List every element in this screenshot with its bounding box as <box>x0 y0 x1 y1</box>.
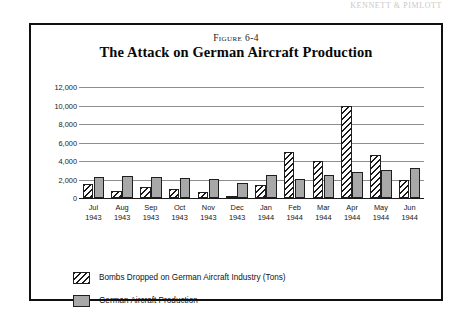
bar-bombs-dropped <box>255 185 266 198</box>
bar-bombs-dropped <box>169 189 180 198</box>
y-axis-tick-label: 6,000 <box>35 138 77 147</box>
legend-label: Bombs Dropped on German Aircraft Industr… <box>99 273 286 282</box>
x-axis-tick-label: Oct1943 <box>165 203 194 223</box>
bar-group <box>140 87 162 198</box>
bar-bombs-dropped <box>341 106 352 199</box>
bar-group <box>399 87 421 198</box>
bar-group <box>198 87 220 198</box>
x-tick-month: Nov <box>194 203 223 213</box>
x-tick-month: Jan <box>252 203 281 213</box>
y-axis-tick-label: 4,000 <box>35 157 77 166</box>
bar-aircraft-production <box>237 183 248 198</box>
bar-bombs-dropped <box>111 191 122 198</box>
x-axis-tick-label: Apr1944 <box>338 203 367 223</box>
x-tick-month: Sep <box>137 203 166 213</box>
x-tick-month: May <box>367 203 396 213</box>
x-axis-tick-label: May1944 <box>367 203 396 223</box>
figure-title: The Attack on German Aircraft Production <box>31 44 441 61</box>
x-axis-tick-label: Nov1943 <box>194 203 223 223</box>
figure-frame: Figure 6-4 The Attack on German Aircraft… <box>29 23 443 301</box>
y-axis-tick-label: 0 <box>35 194 77 203</box>
y-axis-tick-label: 8,000 <box>35 120 77 129</box>
bar-group <box>169 87 191 198</box>
x-axis-tick-label: Jul1943 <box>79 203 108 223</box>
bar-bombs-dropped <box>198 192 209 198</box>
bar-bombs-dropped <box>284 152 295 198</box>
x-tick-year: 1944 <box>367 213 396 223</box>
bar-group <box>83 87 105 198</box>
bar-aircraft-production <box>180 178 191 198</box>
x-tick-month: Jul <box>79 203 108 213</box>
x-tick-year: 1944 <box>280 213 309 223</box>
bar-group <box>255 87 277 198</box>
x-tick-month: Jun <box>395 203 424 213</box>
x-tick-year: 1944 <box>338 213 367 223</box>
chart-plot-area: 02,0004,0006,0008,00010,00012,000 <box>79 87 424 199</box>
x-tick-year: 1943 <box>137 213 166 223</box>
bar-bombs-dropped <box>140 187 151 198</box>
x-tick-year: 1943 <box>223 213 252 223</box>
x-tick-year: 1943 <box>194 213 223 223</box>
y-axis-tick-label: 2,000 <box>35 175 77 184</box>
x-tick-year: 1944 <box>309 213 338 223</box>
bar-aircraft-production <box>266 175 277 198</box>
bar-group <box>313 87 335 198</box>
solid-gray-swatch <box>73 295 90 307</box>
x-tick-month: Mar <box>309 203 338 213</box>
x-tick-year: 1944 <box>395 213 424 223</box>
x-axis-tick-label: Aug1943 <box>108 203 137 223</box>
page-running-head: KENNETT & PIMLOTT <box>350 1 442 10</box>
y-axis-tick-label: 12,000 <box>35 83 77 92</box>
legend-item: German Aircraft Production <box>73 292 403 309</box>
bar-aircraft-production <box>209 179 220 198</box>
x-tick-year: 1944 <box>252 213 281 223</box>
x-axis-tick-label: Feb1944 <box>280 203 309 223</box>
y-axis-tick-label: 10,000 <box>35 101 77 110</box>
x-axis-tick-label: Jun1944 <box>395 203 424 223</box>
bar-aircraft-production <box>352 172 363 198</box>
bar-aircraft-production <box>410 168 421 198</box>
x-tick-year: 1943 <box>108 213 137 223</box>
x-tick-month: Dec <box>223 203 252 213</box>
bar-aircraft-production <box>381 170 392 198</box>
x-tick-month: Feb <box>280 203 309 213</box>
bar-group <box>111 87 133 198</box>
bar-bombs-dropped <box>370 155 381 198</box>
x-axis-tick-label: Jan1944 <box>252 203 281 223</box>
bar-group <box>284 87 306 198</box>
bar-aircraft-production <box>151 177 162 198</box>
x-axis-tick-label: Dec1943 <box>223 203 252 223</box>
bar-group <box>370 87 392 198</box>
bar-aircraft-production <box>94 177 105 198</box>
x-tick-year: 1943 <box>165 213 194 223</box>
bar-bombs-dropped <box>399 180 410 199</box>
diagonal-hatch-swatch <box>73 272 90 284</box>
x-tick-month: Oct <box>165 203 194 213</box>
bars-layer <box>79 87 424 198</box>
x-tick-month: Aug <box>108 203 137 213</box>
x-axis-tick-label: Mar1944 <box>309 203 338 223</box>
bar-bombs-dropped <box>313 161 324 198</box>
bar-group <box>341 87 363 198</box>
x-axis-tick-label: Sep1943 <box>137 203 166 223</box>
bar-group <box>226 87 248 198</box>
bar-aircraft-production <box>295 179 306 198</box>
x-tick-year: 1943 <box>79 213 108 223</box>
x-tick-month: Apr <box>338 203 367 213</box>
x-axis-labels: Jul1943Aug1943Sep1943Oct1943Nov1943Dec19… <box>79 203 424 229</box>
chart-legend: Bombs Dropped on German Aircraft Industr… <box>73 269 403 315</box>
legend-item: Bombs Dropped on German Aircraft Industr… <box>73 269 403 286</box>
bar-aircraft-production <box>122 176 133 198</box>
bar-bombs-dropped <box>83 184 94 198</box>
legend-label: German Aircraft Production <box>99 296 198 305</box>
bar-aircraft-production <box>324 175 335 198</box>
figure-label: Figure 6-4 <box>31 33 441 43</box>
bar-bombs-dropped <box>226 196 237 198</box>
